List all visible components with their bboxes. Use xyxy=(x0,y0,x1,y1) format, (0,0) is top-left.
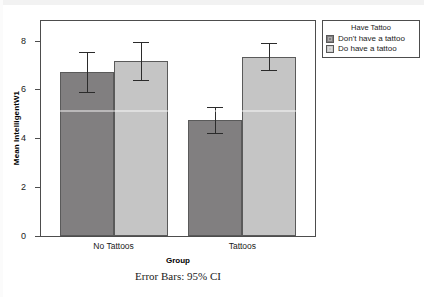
scan-edge-top xyxy=(0,0,424,5)
error-bar-line xyxy=(215,107,216,134)
y-tick-label-8: 8 xyxy=(21,36,26,46)
x-axis-title: Group xyxy=(166,256,190,265)
error-bar-cap-lower xyxy=(133,80,149,81)
error-bar-cap-upper xyxy=(133,42,149,43)
error-bar-line xyxy=(269,43,270,71)
x-tick-label-no-tattoos: No Tattoos xyxy=(93,241,133,251)
y-tick-label-0: 0 xyxy=(21,231,26,241)
chart-page: Mean IntelligentW1 02468 No Tattoos Tatt… xyxy=(0,0,424,297)
legend: Have Tattoo Don't have a tattoo Do have … xyxy=(322,20,420,58)
legend-swatch-icon-light xyxy=(326,45,334,53)
error-bar-cap-lower xyxy=(261,70,277,71)
error-bar-cap-lower xyxy=(207,133,223,134)
error-bar-line xyxy=(87,52,88,93)
y-tick-label-4: 4 xyxy=(21,133,26,143)
bar-no-tattoos-series-0 xyxy=(60,72,114,236)
error-bar-cap-lower xyxy=(79,92,95,93)
y-tick-label-2: 2 xyxy=(21,182,26,192)
error-bar-line xyxy=(141,42,142,79)
plot-area: 02468 xyxy=(41,21,315,236)
error-bar-cap-upper xyxy=(79,52,95,53)
legend-item-label: Don't have a tattoo xyxy=(338,34,405,43)
y-tick-2: 2 xyxy=(35,187,41,188)
y-tick-label-6: 6 xyxy=(21,84,26,94)
error-bar-cap-upper xyxy=(261,43,277,44)
bar-tattoos-series-1 xyxy=(242,57,296,236)
legend-swatch-icon-dark xyxy=(326,35,334,43)
legend-item-dont-have-tattoo[interactable]: Don't have a tattoo xyxy=(326,34,416,43)
legend-item-do-have-tattoo[interactable]: Do have a tattoo xyxy=(326,44,416,53)
y-axis-title: Mean IntelligentW1 xyxy=(12,91,21,165)
y-tick-4: 4 xyxy=(35,138,41,139)
legend-title: Have Tattoo xyxy=(326,23,416,32)
y-tick-6: 6 xyxy=(35,89,41,90)
x-tick-label-tattoos: Tattoos xyxy=(229,241,256,251)
y-tick-0: 0 xyxy=(35,236,41,237)
error-bar-footnote: Error Bars: 95% CI xyxy=(135,270,221,282)
y-tick-8: 8 xyxy=(35,41,41,42)
bar-no-tattoos-series-1 xyxy=(114,61,168,236)
legend-item-label: Do have a tattoo xyxy=(338,44,397,53)
error-bar-cap-upper xyxy=(207,107,223,108)
scan-edge-left xyxy=(0,0,3,297)
bar-tattoos-series-0 xyxy=(188,120,242,236)
